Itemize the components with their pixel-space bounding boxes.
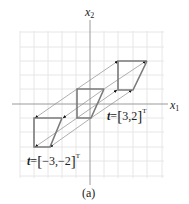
y-axis-label: x2 [85,6,94,20]
label-t-positive: t=[3,2]T [107,108,146,124]
figure-caption: (a) [82,187,95,199]
label-t-negative: t=[−3,−2]T [27,153,80,169]
translation-diagram [0,0,189,204]
y-axis-label-sub: 2 [90,11,94,20]
x-axis-label-sub: 1 [175,104,179,113]
transpose-sup: T [142,107,146,115]
t-value: 3,2 [122,109,137,123]
t-value: −3,−2 [42,154,71,168]
transpose-sup: T [76,152,80,160]
x-axis-label: x1 [170,99,179,113]
